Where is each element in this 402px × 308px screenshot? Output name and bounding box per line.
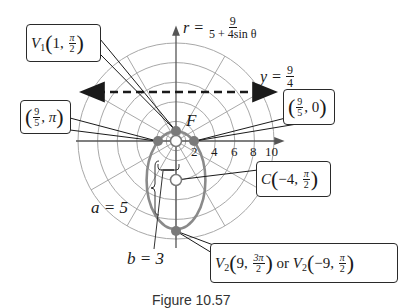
directrix-label: y = 9 4 xyxy=(260,64,295,89)
tick-8: 8 xyxy=(250,145,257,158)
directrix-denominator: 4 xyxy=(286,77,294,89)
v1-theta-num: π xyxy=(69,33,76,44)
center-point xyxy=(171,175,182,186)
v1-point xyxy=(171,126,181,136)
equation-denominator: 5 + 4sin θ xyxy=(208,28,258,40)
tick-4: 4 xyxy=(211,145,218,158)
b-label-text: b = 3 xyxy=(127,249,164,268)
focus-point xyxy=(171,136,182,147)
v1-sub: 1 xyxy=(40,42,45,53)
tick-6: 6 xyxy=(231,145,238,158)
a-label: a = 5 xyxy=(91,199,128,216)
left-point xyxy=(153,136,163,146)
focus-label: F xyxy=(186,112,196,129)
directrix-lhs: y = xyxy=(260,69,282,85)
v2-alt-sub: 2 xyxy=(302,262,307,273)
v2-theta-den: 2 xyxy=(255,264,262,274)
v2-name: V xyxy=(215,255,224,272)
equation-fraction: 9 5 + 4sin θ xyxy=(208,15,258,40)
tick-2: 2 xyxy=(191,145,198,158)
v2-alt-theta-num: π xyxy=(339,253,346,264)
v2-label: V2(9, 3π2) or V2(−9, π2) xyxy=(210,243,398,283)
v2-sub: 2 xyxy=(224,262,229,273)
directrix-fraction: 9 4 xyxy=(286,64,294,89)
v2-alt-name: V xyxy=(293,255,302,272)
right-point-label: (95, 0) xyxy=(283,89,335,125)
right-r-den: 5 xyxy=(296,108,303,118)
left-point-label: (95, π) xyxy=(20,100,71,134)
v2-point xyxy=(171,226,181,236)
v2-theta-num: 3π xyxy=(253,253,265,264)
left-r-num: 9 xyxy=(33,107,40,118)
v1-name: V xyxy=(31,35,40,52)
left-r-den: 5 xyxy=(33,118,40,128)
equation-lhs: r = xyxy=(183,20,204,36)
center-r: −4 xyxy=(278,171,294,188)
v1-r: 1 xyxy=(53,35,61,52)
right-r-num: 9 xyxy=(296,97,303,108)
left-theta: π xyxy=(49,109,57,126)
center-theta-num: π xyxy=(303,169,310,180)
center-label: C(−4, π2) xyxy=(256,161,331,197)
center-name: C xyxy=(261,171,271,188)
tick-10: 10 xyxy=(265,145,278,158)
figure-caption: Figure 10.57 xyxy=(152,292,231,308)
b-label: b = 3 xyxy=(127,250,164,267)
a-label-text: a = 5 xyxy=(91,198,128,217)
polar-equation: r = 9 5 + 4sin θ xyxy=(183,15,259,40)
center-theta-den: 2 xyxy=(303,180,310,190)
v1-theta-den: 2 xyxy=(69,44,76,54)
v2-alt-theta-den: 2 xyxy=(339,264,346,274)
v2-or: or xyxy=(277,255,290,272)
v2-alt-r: −9 xyxy=(314,255,330,272)
v2-r: 9 xyxy=(237,255,245,272)
v1-label: V1(1, π2) xyxy=(26,24,101,62)
right-theta: 0 xyxy=(312,99,320,116)
